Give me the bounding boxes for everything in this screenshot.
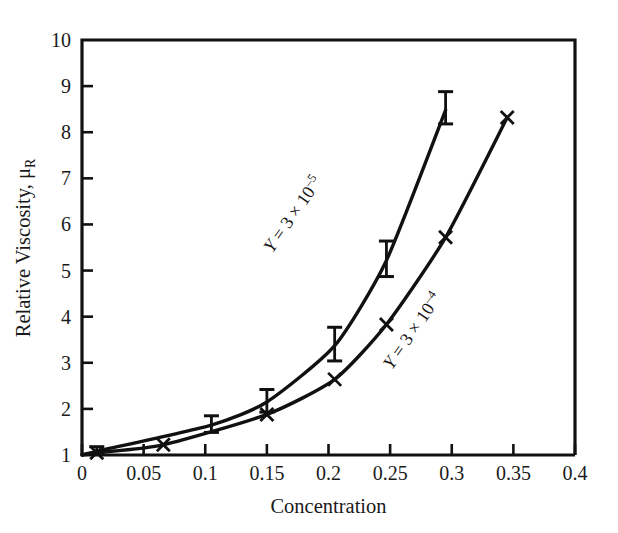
y-tick-label: 9 (61, 75, 71, 97)
x-tick-label: 0.25 (373, 462, 408, 484)
x-tick-label: 0.3 (439, 462, 464, 484)
y-axis-title-subscript: R (23, 158, 38, 168)
y-tick-label: 8 (61, 121, 71, 143)
x-tick-label: 0.4 (563, 462, 588, 484)
y-tick-label: 3 (61, 352, 71, 374)
x-tick-label: 0.2 (316, 462, 341, 484)
y-tick-label: 6 (61, 213, 71, 235)
x-tick-label: 0.05 (126, 462, 161, 484)
relative-viscosity-chart: 00.050.10.150.20.250.30.350.4 1234567891… (0, 0, 618, 533)
y-tick-label: 2 (61, 398, 71, 420)
y-tick-label: 1 (61, 444, 71, 466)
x-tick-label: 0.1 (193, 462, 218, 484)
chart-canvas: 00.050.10.150.20.250.30.350.4 1234567891… (0, 0, 618, 533)
x-tick-label: 0.15 (249, 462, 284, 484)
y-tick-label: 7 (61, 167, 71, 189)
x-axis-tick-labels: 00.050.10.150.20.250.30.350.4 (77, 462, 588, 484)
y-tick-label: 5 (61, 260, 71, 282)
y-tick-label: 4 (61, 306, 71, 328)
x-tick-label: 0 (77, 462, 87, 484)
x-axis-title: Concentration (270, 495, 386, 517)
y-axis-title-text: Relative Viscosity, μ (12, 168, 35, 337)
y-tick-label: 10 (51, 29, 71, 51)
x-tick-label: 0.35 (496, 462, 531, 484)
